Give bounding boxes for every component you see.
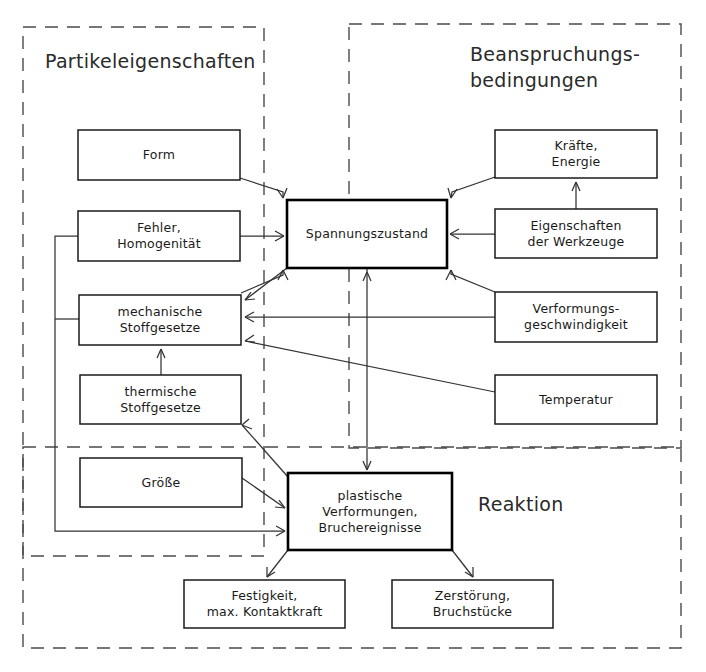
edge-line xyxy=(245,268,287,300)
edge-eigenschaften-to-spannung xyxy=(450,229,495,239)
edge-fehler-to-spannung xyxy=(240,231,284,241)
edge-groesse-to-plastische xyxy=(242,478,285,508)
arrowhead-icon xyxy=(448,188,457,198)
edge-plastische-to-zerstoerung xyxy=(452,550,473,577)
region-label-partikeleigenschaften: Partikeleigenschaften xyxy=(45,50,256,72)
node-label-form: Form xyxy=(143,147,175,162)
arrowhead-icon xyxy=(245,335,255,342)
node-kraefte-energie[interactable]: Kräfte,Energie xyxy=(495,130,657,178)
node-label-spannungszustand: Spannungszustand xyxy=(306,226,428,241)
region-label-beanspruchungsbedingungen: Beanspruchungs-bedingungen xyxy=(470,43,640,91)
edge-line xyxy=(451,177,495,198)
node-thermische-stoffgesetze[interactable]: thermischeStoffgesetze xyxy=(80,375,241,424)
edge-line xyxy=(452,550,473,577)
edge-line xyxy=(242,425,288,477)
node-label-kraefte-energie: Kräfte,Energie xyxy=(552,138,601,169)
region-label-reaktion: Reaktion xyxy=(478,493,563,515)
node-label-groesse: Größe xyxy=(142,474,181,489)
node-temperatur[interactable]: Temperatur xyxy=(495,375,657,424)
edge-line xyxy=(241,270,283,293)
node-spannungszustand[interactable]: Spannungszustand xyxy=(287,200,447,268)
edge-plastische-to-thermische xyxy=(242,419,288,477)
edge-line xyxy=(242,478,285,508)
node-verformungsgeschwindigkeit[interactable]: Verformungs-geschwindigkeit xyxy=(495,292,657,342)
edge-line xyxy=(451,270,495,292)
node-plastische-verformungen[interactable]: plastischeVerformungen,Bruchereignisse xyxy=(288,473,452,550)
edge-thermische-to-mech xyxy=(157,349,165,375)
arrowhead-icon xyxy=(277,188,287,198)
edge-line xyxy=(240,178,283,198)
node-label-verformungsgeschwindigkeit: Verformungs-geschwindigkeit xyxy=(524,301,628,332)
edge-kraefte-to-spannung xyxy=(448,177,495,198)
edge-spannung-to-mech-feedback xyxy=(245,268,287,300)
node-form[interactable]: Form xyxy=(78,130,240,180)
node-label-thermische-stoffgesetze: thermischeStoffgesetze xyxy=(120,383,201,414)
node-label-eigenschaften-der-werkzeuge: Eigenschaftender Werkzeuge xyxy=(528,217,625,248)
edge-eigenschaften-to-kraefte xyxy=(572,182,580,209)
edge-verformungsgeschw-to-mech xyxy=(245,312,495,322)
node-festigkeit-kontaktkraft[interactable]: Festigkeit,max. Kontaktkraft xyxy=(184,580,345,628)
node-fehler-homogenitaet[interactable]: Fehler,Homogenität xyxy=(78,211,240,261)
node-label-mechanische-stoffgesetze: mechanischeStoffgesetze xyxy=(118,304,203,335)
node-label-temperatur: Temperatur xyxy=(538,391,613,406)
node-groesse[interactable]: Größe xyxy=(80,458,242,507)
edge-verformungsgeschw-to-spannung xyxy=(446,270,495,292)
edge-line xyxy=(245,341,495,392)
node-eigenschaften-der-werkzeuge[interactable]: Eigenschaftender Werkzeuge xyxy=(495,209,657,258)
region-label-group: PartikeleigenschaftenBeanspruchungs-bedi… xyxy=(45,43,640,515)
edge-line xyxy=(267,550,288,577)
edge-plastische-to-festigkeit xyxy=(267,550,288,577)
edge-spannung-plastische-bidirectional xyxy=(363,268,371,470)
process-diagram: FormFehler,HomogenitätmechanischeStoffge… xyxy=(0,0,706,672)
edge-temperatur-to-mech xyxy=(245,335,495,392)
node-label-zerstoerung-bruchstuecke: Zerstörung,Bruchstücke xyxy=(433,588,512,619)
node-mechanische-stoffgesetze[interactable]: mechanischeStoffgesetze xyxy=(79,295,241,345)
diagram-canvas: FormFehler,HomogenitätmechanischeStoffge… xyxy=(0,0,706,672)
node-zerstoerung-bruchstuecke[interactable]: Zerstörung,Bruchstücke xyxy=(392,580,553,628)
